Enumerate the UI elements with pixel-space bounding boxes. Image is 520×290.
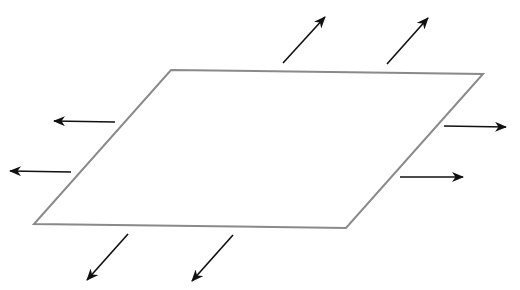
arrow-bottom-1-icon bbox=[87, 234, 128, 280]
arrow-left-1-icon bbox=[54, 121, 115, 122]
arrow-top-2-icon bbox=[387, 18, 428, 64]
diagram-canvas bbox=[0, 0, 520, 290]
arrow-right-1-icon bbox=[444, 126, 506, 127]
tension-sheet-diagram bbox=[0, 0, 520, 290]
arrow-top-1-icon bbox=[283, 17, 325, 63]
sheet-parallelogram bbox=[34, 70, 483, 228]
arrow-left-2-icon bbox=[10, 171, 71, 172]
arrow-bottom-2-icon bbox=[192, 235, 233, 281]
force-arrows-group bbox=[10, 17, 506, 281]
